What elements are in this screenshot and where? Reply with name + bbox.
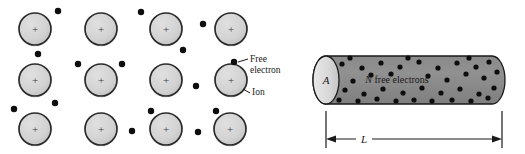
conduction-electron-dot — [361, 91, 366, 96]
conduction-electron-dot — [444, 77, 449, 82]
conduction-electron-dot — [405, 55, 410, 60]
conduction-electron-dot — [481, 75, 486, 80]
ion-charge-symbol: + — [32, 123, 38, 135]
free-electron-dot — [195, 129, 201, 135]
ion-charge-symbol: + — [163, 23, 169, 35]
ion-callout-text: Ion — [252, 87, 265, 97]
conduction-electron-dot — [494, 69, 499, 74]
free-electron-dot — [55, 8, 61, 14]
conduction-electron-dot — [342, 87, 347, 92]
ion: + — [19, 113, 51, 146]
ion: + — [19, 64, 51, 97]
conduction-electron-dot — [485, 95, 490, 100]
physics-figure: ++++++++++++ FreeelectronIon A N free el… — [0, 0, 525, 154]
conduction-electron-dot — [463, 71, 468, 76]
ion: + — [150, 113, 182, 146]
conduction-electron-dot — [359, 65, 364, 70]
ion: + — [215, 13, 247, 46]
conduction-electron-dot — [435, 65, 440, 70]
conduction-electron-dot — [339, 61, 344, 66]
free-electron-dot — [193, 83, 199, 89]
conduction-electron-dot — [336, 97, 341, 102]
free-electron-dot — [213, 108, 219, 114]
ion-charge-symbol: + — [228, 23, 234, 35]
free-electron-dot — [231, 59, 237, 65]
conduction-electron-dot — [438, 90, 443, 95]
ion: + — [85, 113, 117, 146]
conduction-electron-dot — [378, 60, 383, 65]
free-electron-dot — [52, 100, 58, 106]
ion-charge-symbol: + — [163, 74, 169, 86]
conduction-electron-dot — [355, 98, 360, 103]
conduction-electron-dot — [411, 97, 416, 102]
free-electron-dot — [200, 21, 206, 27]
ion: + — [19, 13, 51, 46]
conduction-electron-dot — [397, 64, 402, 69]
conduction-electron-dot — [473, 64, 478, 69]
free-electron-dot — [35, 51, 41, 57]
ion-charge-symbol: + — [98, 123, 104, 135]
ion-charge-symbol: + — [163, 123, 169, 135]
ion: + — [85, 64, 117, 97]
ion-charge-symbol: + — [32, 74, 38, 86]
ion: + — [215, 64, 247, 97]
ion-charge-symbol: + — [98, 74, 104, 86]
conduction-electron-dot — [468, 98, 473, 103]
ion: + — [85, 13, 117, 46]
conduction-electron-dot — [429, 98, 434, 103]
length-label: L — [360, 133, 367, 145]
conduction-electron-dot — [393, 98, 398, 103]
conduction-electron-dot — [400, 90, 405, 95]
free-electron-dot — [119, 61, 125, 67]
conduction-electron-dot — [449, 97, 454, 102]
free-electron-dot — [138, 9, 144, 15]
ion-charge-symbol: + — [32, 23, 38, 35]
figure-canvas: ++++++++++++ FreeelectronIon A N free el… — [0, 0, 525, 154]
ion-charge-symbol: + — [228, 74, 234, 86]
conduction-electron-dot — [476, 91, 481, 96]
conduction-electron-dot — [466, 55, 471, 60]
area-label: A — [322, 74, 330, 86]
free-electron-dot — [148, 108, 154, 114]
free-electron-dot — [180, 47, 186, 53]
ion-charge-symbol: + — [227, 123, 233, 135]
ion: + — [150, 64, 182, 97]
conduction-electron-dot — [419, 85, 424, 90]
conduction-electron-dot — [347, 55, 352, 60]
conduction-electron-dot — [491, 85, 496, 90]
free-electron-count-label: N free electrons — [364, 74, 428, 85]
free-electron-dot — [129, 128, 135, 134]
ion-charge-symbol: + — [98, 23, 104, 35]
free-electron-dot — [11, 106, 17, 112]
conduction-electron-dot — [457, 86, 462, 91]
free-electron-dot — [75, 61, 81, 67]
ion: + — [150, 13, 182, 46]
conduction-electron-dot — [350, 78, 355, 83]
conduction-electron-dot — [416, 59, 421, 64]
conduction-electron-dot — [486, 59, 491, 64]
ion: + — [214, 113, 246, 146]
conduction-electron-dot — [380, 86, 385, 91]
conduction-electron-dot — [374, 96, 379, 101]
conduction-electron-dot — [454, 60, 459, 65]
